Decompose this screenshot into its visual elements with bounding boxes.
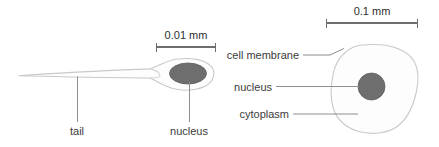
cell-nucleus-shape bbox=[358, 73, 385, 100]
sperm-scale-bar-label: 0.01 mm bbox=[165, 29, 208, 41]
sperm-scale-bar: 0.01 mm bbox=[156, 29, 216, 52]
cytoplasm-label: cytoplasm bbox=[239, 108, 289, 120]
tail-label: tail bbox=[70, 125, 84, 137]
cell-membrane-label: cell membrane bbox=[227, 49, 299, 61]
sperm-nucleus-shape bbox=[170, 63, 207, 84]
cell-membrane-leader-line bbox=[303, 49, 344, 56]
cell-scale-bar-label: 0.1 mm bbox=[354, 5, 391, 17]
cell-nucleus-label: nucleus bbox=[234, 81, 272, 93]
sperm-panel: 0.01 mm tail nucleus bbox=[19, 29, 217, 137]
sperm-nucleus-label: nucleus bbox=[170, 125, 208, 137]
cell-panel: 0.1 mm cell membrane nucleus cytoplasm bbox=[227, 5, 418, 133]
cell-scale-bar: 0.1 mm bbox=[326, 5, 418, 28]
cell-size-diagram: 0.01 mm tail nucleus bbox=[0, 0, 439, 147]
